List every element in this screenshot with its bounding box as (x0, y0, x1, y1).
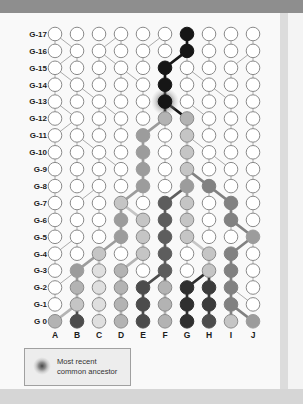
individual-circle-G-12-A (48, 112, 62, 126)
individual-circle-G-3-I (224, 264, 238, 278)
individual-circle-G-13-C (92, 95, 106, 109)
individual-circle-G-1-I (224, 298, 238, 312)
individual-circle-G-0-J (246, 315, 260, 329)
individual-circle-G-8-H (202, 179, 216, 193)
individual-circle-G-8-I (224, 179, 238, 193)
individual-circle-G-15-H (202, 61, 216, 75)
individual-circle-G-1-F (158, 298, 172, 312)
individual-circle-G-13-E (136, 95, 150, 109)
figure-coalescent-genealogy: G-17G-16G-15G-14G-13G-12G-11G-10G-9G-8G-… (0, 0, 303, 404)
individual-circle-G-9-I (224, 162, 238, 176)
individual-circle-G-4-F (158, 247, 172, 261)
individual-circle-G-9-J (246, 162, 260, 176)
individual-circle-G-5-J (246, 230, 260, 244)
generation-label-G-16: G-16 (29, 47, 47, 56)
individual-circle-G-7-D (114, 196, 128, 210)
right-margin-strip (288, 13, 303, 389)
column-label-F: F (162, 330, 167, 340)
individual-circle-G-6-E (136, 213, 150, 227)
individual-circle-G-0-I (224, 315, 238, 329)
individual-circle-G-16-F (158, 44, 172, 58)
individual-circle-G-17-A (48, 27, 62, 41)
individual-circle-G-16-G (180, 44, 194, 58)
individual-circle-G-15-C (92, 61, 106, 75)
individual-circle-G-13-D (114, 95, 128, 109)
individual-circle-G-8-B (70, 179, 84, 193)
generation-label-G-17: G-17 (29, 30, 47, 39)
individual-circle-G-16-D (114, 44, 128, 58)
individual-circle-G-7-I (224, 196, 238, 210)
individual-circle-G-3-C (92, 264, 106, 278)
individual-circle-G-8-F (158, 179, 172, 193)
individual-circle-G-4-D (114, 247, 128, 261)
generation-label-G-14: G-14 (29, 81, 47, 90)
individual-circle-G-11-B (70, 129, 84, 143)
column-label-J: J (251, 330, 256, 340)
individual-circle-G-7-C (92, 196, 106, 210)
individual-circle-G-11-E (136, 129, 150, 143)
individual-circle-G-2-J (246, 281, 260, 295)
individual-circle-G-10-D (114, 146, 128, 160)
generation-label-G-4: G-4 (34, 250, 48, 259)
individual-circle-G-14-B (70, 78, 84, 92)
individual-circle-G-15-I (224, 61, 238, 75)
individual-circle-G-17-J (246, 27, 260, 41)
individual-circle-G-9-E (136, 162, 150, 176)
generation-label-G-12: G-12 (29, 114, 47, 123)
individual-circle-G-8-E (136, 179, 150, 193)
individual-circle-G-9-G (180, 162, 194, 176)
individual-circle-G-15-F (158, 61, 172, 75)
generation-label-G-0: G 0 (34, 317, 47, 326)
individual-circle-G-13-H (202, 95, 216, 109)
individual-circle-G-2-I (224, 281, 238, 295)
column-label-C: C (96, 330, 102, 340)
individual-circle-G-2-H (202, 281, 216, 295)
individual-circle-G-0-B (70, 315, 84, 329)
individual-circle-G-16-B (70, 44, 84, 58)
individual-circle-G-6-J (246, 213, 260, 227)
mrca-legend-dot-icon (33, 357, 51, 375)
individual-circle-G-13-J (246, 95, 260, 109)
individual-circle-G-17-B (70, 27, 84, 41)
individual-circle-G-12-E (136, 112, 150, 126)
individual-circle-G-13-A (48, 95, 62, 109)
generation-label-G-13: G-13 (29, 97, 47, 106)
individual-circle-G-5-G (180, 230, 194, 244)
individual-circle-G-4-A (48, 247, 62, 261)
individual-circle-G-10-G (180, 146, 194, 160)
individual-circle-G-17-I (224, 27, 238, 41)
generation-label-G-15: G-15 (29, 64, 47, 73)
individual-circle-G-11-A (48, 129, 62, 143)
individual-circle-G-2-D (114, 281, 128, 295)
individual-circle-G-1-B (70, 298, 84, 312)
individual-circle-G-9-A (48, 162, 62, 176)
individual-circle-G-14-H (202, 78, 216, 92)
individual-circle-G-14-I (224, 78, 238, 92)
generation-label-G-8: G-8 (34, 182, 48, 191)
individual-circle-G-1-H (202, 298, 216, 312)
individual-circle-G-0-F (158, 315, 172, 329)
genealogy-diagram-canvas: G-17G-16G-15G-14G-13G-12G-11G-10G-9G-8G-… (0, 0, 303, 404)
legend-label-line2: common ancestor (57, 367, 118, 376)
individual-circle-G-13-G (180, 95, 194, 109)
generation-label-G-3: G-3 (34, 266, 48, 275)
individual-circle-G-14-A (48, 78, 62, 92)
individual-circle-G-3-F (158, 264, 172, 278)
individual-circle-G-6-I (224, 213, 238, 227)
individual-circle-G-15-G (180, 61, 194, 75)
individual-circle-G-13-B (70, 95, 84, 109)
individual-circle-G-10-B (70, 146, 84, 160)
individual-circle-G-5-I (224, 230, 238, 244)
individual-circle-G-17-C (92, 27, 106, 41)
individual-circle-G-14-D (114, 78, 128, 92)
generation-label-G-10: G-10 (29, 148, 47, 157)
individual-circle-G-15-J (246, 61, 260, 75)
individual-circle-G-15-E (136, 61, 150, 75)
individual-circle-G-14-G (180, 78, 194, 92)
individual-circle-G-4-G (180, 247, 194, 261)
column-label-B: B (74, 330, 80, 340)
individual-circle-G-0-C (92, 315, 106, 329)
individual-circle-G-3-A (48, 264, 62, 278)
individual-circle-G-5-B (70, 230, 84, 244)
individual-circle-G-15-A (48, 61, 62, 75)
